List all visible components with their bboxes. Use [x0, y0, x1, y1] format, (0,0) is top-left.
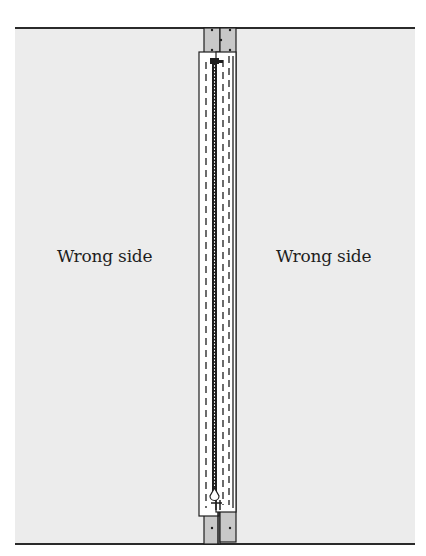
seam-allowances [199, 52, 236, 516]
zipper-illustration [0, 0, 426, 556]
zipper-top-stop-right [217, 60, 223, 63]
